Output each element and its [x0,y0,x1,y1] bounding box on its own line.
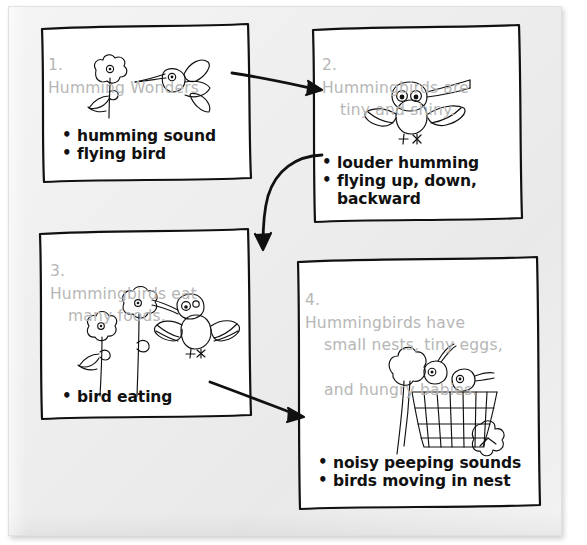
panel-2-heading-line-2: tiny and shiny. [322,99,522,121]
list-item: birds moving in nest [318,473,553,490]
list-item: bird eating [62,389,257,406]
panel-4-heading: 4. Hummingbirds have small nests, tiny e… [305,267,540,424]
list-item: flying up, down, backward [322,173,527,208]
panel-4-number: 4. [305,291,320,309]
panel-3-heading: 3. Hummingbirds eat many foods. [50,238,255,350]
panel-2-number: 2. [322,56,337,74]
list-item: louder humming [322,155,527,172]
panel-4-bullets: noisy peeping sounds birds moving in nes… [318,455,553,492]
panel-2-bullets: louder humming flying up, down, backward [322,155,527,209]
list-item: noisy peeping sounds [318,455,553,472]
panel-1-heading: 1. Humming Wonders [48,32,253,99]
panel-2-heading-line-1: Hummingbirds are [322,79,469,97]
arrow-2-to-3 [255,155,322,250]
list-item: flying bird [62,146,257,163]
panel-1-bullets: humming sound flying bird [62,128,257,165]
worksheet-canvas: 1. Humming Wonders humming sound flying … [0,0,587,545]
panel-2-heading: 2. Hummingbirds are tiny and shiny. [322,32,522,144]
panel-4-heading-line-3: and hungry babies. [305,379,540,401]
panel-3-heading-line-1: Hummingbirds eat [50,285,197,303]
list-item: humming sound [62,128,257,145]
panel-3-heading-line-2: many foods. [50,305,255,327]
panel-1-heading-line-1: Humming Wonders [48,79,199,97]
panel-4-heading-line-1: Hummingbirds have [305,314,465,332]
panel-4-heading-line-2: small nests, tiny eggs, [305,334,540,356]
panel-3-number: 3. [50,262,65,280]
panel-3-bullets: bird eating [62,389,257,407]
panel-1-number: 1. [48,56,63,74]
